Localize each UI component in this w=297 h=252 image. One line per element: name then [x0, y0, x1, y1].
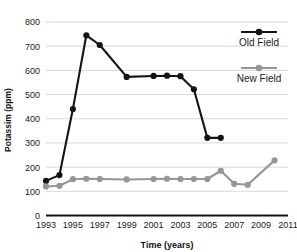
- x-axis-title: Time (years): [141, 240, 194, 250]
- y-axis-tick-label: 300: [25, 138, 40, 148]
- chart-canvas: 0100200300400500600700800 19931995199719…: [0, 0, 297, 252]
- x-axis-tick-label: 1993: [36, 220, 56, 230]
- data-point: [70, 176, 76, 182]
- data-point: [164, 176, 170, 182]
- data-point: [150, 176, 156, 182]
- x-axis-tick-label: 1997: [90, 220, 110, 230]
- y-axis-tick-label: 600: [25, 66, 40, 76]
- data-point: [83, 32, 89, 38]
- data-point: [177, 176, 183, 182]
- y-axis-title: Potassim (ppm): [3, 88, 13, 152]
- legend-label: New Field: [237, 73, 281, 84]
- data-point: [271, 157, 277, 163]
- y-axis-tick-label: 800: [25, 17, 40, 27]
- data-point: [204, 135, 210, 141]
- data-point: [97, 176, 103, 182]
- data-point: [218, 168, 224, 174]
- y-axis-tick-group: 0100200300400500600700800: [25, 17, 40, 221]
- y-axis-tick-label: 700: [25, 42, 40, 52]
- x-axis-tick-label: 2001: [144, 220, 164, 230]
- data-point: [204, 176, 210, 182]
- data-point: [70, 106, 76, 112]
- data-point: [218, 135, 224, 141]
- data-point: [245, 182, 251, 188]
- potassium-line-chart: 0100200300400500600700800 19931995199719…: [0, 0, 297, 252]
- data-point: [43, 178, 49, 184]
- data-point: [150, 73, 156, 79]
- data-point: [231, 181, 237, 187]
- x-axis-tick-label: 1995: [63, 220, 83, 230]
- x-axis-tick-label: 2011: [278, 220, 297, 230]
- data-point: [164, 73, 170, 79]
- x-axis-tick-label: 2007: [224, 220, 244, 230]
- y-axis-tick-label: 100: [25, 187, 40, 197]
- legend-marker: [256, 65, 263, 72]
- data-point: [177, 73, 183, 79]
- y-axis-tick-label: 200: [25, 163, 40, 173]
- data-point: [43, 183, 49, 189]
- data-point: [56, 183, 62, 189]
- x-axis-tick-label: 2009: [251, 220, 271, 230]
- legend-marker: [256, 29, 263, 36]
- data-point: [191, 176, 197, 182]
- data-point: [56, 172, 62, 178]
- y-axis-tick-label: 400: [25, 114, 40, 124]
- x-axis-tick-label: 1999: [117, 220, 137, 230]
- legend-label: Old Field: [239, 37, 279, 48]
- y-axis-tick-label: 500: [25, 90, 40, 100]
- data-point: [124, 74, 130, 80]
- data-point: [124, 176, 130, 182]
- data-point: [97, 42, 103, 48]
- data-point: [191, 86, 197, 92]
- x-axis-tick-label: 2003: [170, 220, 190, 230]
- data-point: [83, 176, 89, 182]
- x-axis-tick-label: 2005: [197, 220, 217, 230]
